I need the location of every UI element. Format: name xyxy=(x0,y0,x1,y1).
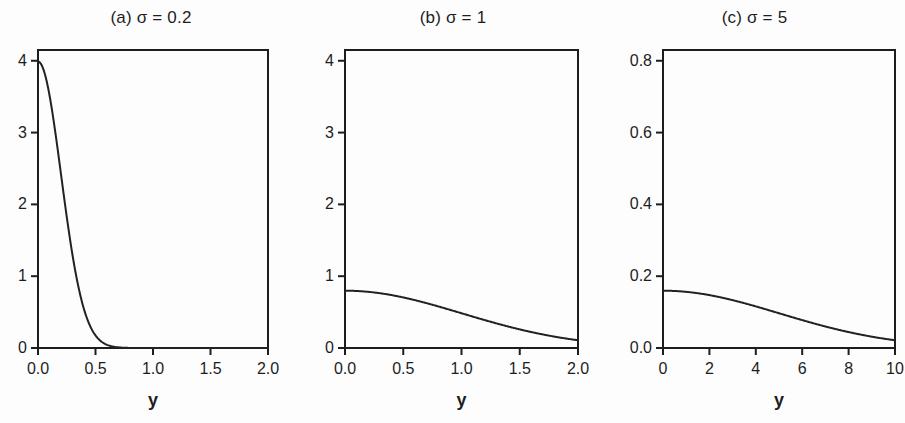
x-axis-title: y xyxy=(345,390,578,411)
y-tick-label: 2 xyxy=(18,195,27,213)
plot-frame xyxy=(663,50,895,348)
x-tick-label: 10 xyxy=(886,360,904,378)
y-tick-label: 3 xyxy=(18,124,27,142)
x-axis-title: y xyxy=(663,390,895,411)
y-tick-label: 2 xyxy=(325,195,334,213)
density-curve xyxy=(663,291,895,341)
x-tick-label: 0.5 xyxy=(392,360,414,378)
x-tick-label: 8 xyxy=(844,360,853,378)
y-tick-label: 0.0 xyxy=(630,339,652,357)
plot-frame xyxy=(38,50,268,348)
x-tick-label: 0.0 xyxy=(27,360,49,378)
x-tick-label: 1.5 xyxy=(199,360,221,378)
x-tick-label: 0.0 xyxy=(334,360,356,378)
x-axis-title: y xyxy=(38,390,268,411)
x-tick-label: 6 xyxy=(798,360,807,378)
chart-panel-a: (a) σ = 0.20.00.51.01.52.001234y xyxy=(0,0,302,423)
y-tick-label: 1 xyxy=(18,267,27,285)
density-curve xyxy=(345,291,578,341)
x-tick-label: 0.5 xyxy=(84,360,106,378)
y-tick-label: 0.8 xyxy=(630,52,652,70)
y-tick-label: 3 xyxy=(325,124,334,142)
y-tick-label: 0.2 xyxy=(630,267,652,285)
x-tick-label: 4 xyxy=(751,360,760,378)
density-curve xyxy=(38,62,268,348)
x-tick-label: 1.5 xyxy=(509,360,531,378)
y-tick-label: 0.4 xyxy=(630,195,652,213)
x-tick-label: 0 xyxy=(659,360,668,378)
x-tick-label: 2 xyxy=(705,360,714,378)
x-tick-label: 1.0 xyxy=(450,360,472,378)
y-tick-label: 0 xyxy=(18,339,27,357)
y-tick-label: 0.6 xyxy=(630,124,652,142)
figure-panel-group: (a) σ = 0.20.00.51.01.52.001234y(b) σ = … xyxy=(0,0,905,423)
plot-frame xyxy=(345,50,578,348)
x-tick-label: 2.0 xyxy=(257,360,279,378)
y-tick-label: 0 xyxy=(325,339,334,357)
chart-panel-b: (b) σ = 10.00.51.01.52.001234y xyxy=(302,0,604,423)
x-tick-label: 1.0 xyxy=(142,360,164,378)
y-tick-label: 1 xyxy=(325,267,334,285)
y-tick-label: 4 xyxy=(325,52,334,70)
x-tick-label: 2.0 xyxy=(567,360,589,378)
y-tick-label: 4 xyxy=(18,52,27,70)
chart-panel-c: (c) σ = 502468100.00.20.40.60.8y xyxy=(604,0,905,423)
